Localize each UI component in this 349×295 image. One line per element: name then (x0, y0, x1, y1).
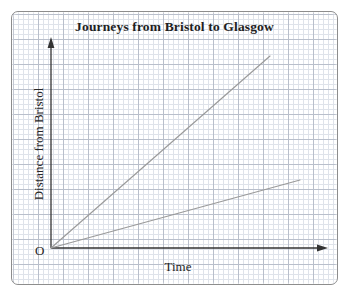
origin-label: O (35, 243, 44, 259)
y-axis-label: Distance from Bristol (31, 64, 47, 224)
series-line-slow-journey (51, 180, 300, 248)
chart-title: Journeys from Bristol to Glasgow (0, 19, 349, 35)
x-axis-arrowhead (317, 245, 328, 252)
series-line-fast-journey (51, 56, 270, 248)
y-axis-arrowhead (48, 37, 55, 48)
plot-area (0, 0, 349, 295)
x-axis-label: Time (133, 259, 223, 275)
chart-figure: Journeys from Bristol to Glasgow Distanc… (0, 0, 349, 295)
